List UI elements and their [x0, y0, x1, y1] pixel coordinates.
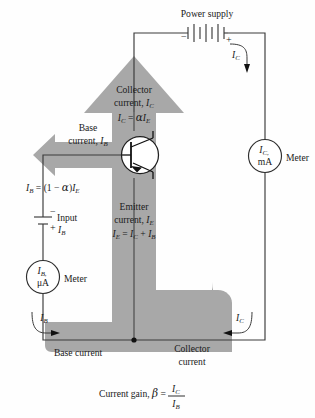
current-gain-numerator: IC: [171, 383, 180, 395]
input-current-label: IB: [57, 224, 66, 236]
ic-top-label: IC: [231, 49, 240, 61]
circuit-diagram: Power supply − + IC Collector current, I…: [0, 0, 315, 418]
base-current-label-line1: Base: [79, 122, 98, 133]
bottom-node-dot: [131, 337, 136, 342]
base-current-label-line2: current, IB: [68, 135, 108, 147]
collector-current-bottom-caption-line1: Collector: [174, 343, 211, 354]
battery-minus-sign: −: [181, 31, 187, 42]
ib-bottom-label: IB: [39, 312, 48, 324]
power-supply-battery: [186, 24, 228, 42]
input-minus-sign: −: [50, 206, 56, 217]
emitter-current-label-line2: current, IE: [114, 214, 154, 226]
emitter-current-label-line1: Emitter: [120, 201, 150, 212]
ic-bottom-label: IC: [235, 312, 244, 324]
collector-current-label-line2: current, IC: [114, 97, 154, 109]
ammeter-uA-unit: μA: [37, 277, 49, 288]
ammeter-uA-label: Meter: [64, 273, 88, 284]
collector-current-bottom-caption-line2: current: [178, 356, 205, 367]
input-plus-sign: +: [50, 222, 56, 233]
ammeter-mA-unit: mA: [258, 156, 272, 167]
ammeter-mA-label: Meter: [286, 152, 310, 163]
current-gain-denominator: IB: [171, 398, 180, 410]
collector-current-label-line1: Collector: [116, 84, 153, 95]
battery-plus-sign: +: [226, 34, 232, 45]
base-current-equation: IB = (1 − α)IE: [25, 181, 80, 194]
current-gain-text: Current gain, β =: [99, 387, 166, 399]
power-supply-label: Power supply: [181, 8, 234, 19]
base-current-bottom-caption: Base current: [54, 347, 103, 358]
input-label: Input: [57, 212, 78, 223]
figure-root: Power supply − + IC Collector current, I…: [0, 0, 315, 418]
ic-top-arrowhead: [244, 64, 250, 73]
